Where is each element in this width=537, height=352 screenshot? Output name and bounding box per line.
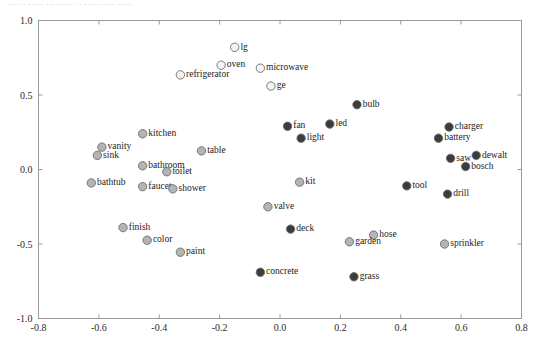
data-point[interactable]: concrete <box>256 266 298 276</box>
point-label-bosch: bosch <box>471 161 493 171</box>
point-label-charger: charger <box>455 121 484 131</box>
point-label-table: table <box>207 145 225 155</box>
point-marker-refrigerator[interactable] <box>176 71 184 79</box>
point-marker-bulb[interactable] <box>353 100 361 108</box>
data-point[interactable]: deck <box>286 223 314 233</box>
point-label-lg: lg <box>240 42 248 52</box>
y-tick-label: -1.0 <box>17 313 33 324</box>
data-point[interactable]: grass <box>350 271 380 281</box>
point-marker-microwave[interactable] <box>256 64 264 72</box>
point-marker-drill[interactable] <box>443 190 451 198</box>
point-marker-battery[interactable] <box>434 134 442 142</box>
point-marker-bathtub[interactable] <box>87 179 95 187</box>
point-marker-bathroom[interactable] <box>138 162 146 170</box>
data-point[interactable]: faucet <box>138 181 171 191</box>
point-marker-bosch[interactable] <box>461 162 469 170</box>
point-label-deck: deck <box>296 223 314 233</box>
point-marker-deck[interactable] <box>286 225 294 233</box>
point-label-concrete: concrete <box>266 266 298 276</box>
point-marker-kitchen[interactable] <box>138 130 146 138</box>
point-label-bulb: bulb <box>363 99 380 109</box>
point-label-saw: saw <box>456 153 471 163</box>
data-point[interactable]: garden <box>345 236 381 246</box>
x-tick-label: 0.4 <box>395 322 408 333</box>
point-marker-color[interactable] <box>143 236 151 244</box>
point-marker-toilet[interactable] <box>163 168 171 176</box>
data-point[interactable]: lg <box>231 42 249 52</box>
data-point[interactable]: fan <box>283 120 305 130</box>
point-label-sink: sink <box>103 150 119 160</box>
scatter-plot-figure: ··· ·· ····· ········· ·· ·········· ···… <box>0 0 537 352</box>
data-point[interactable]: finish <box>119 222 151 232</box>
point-marker-sprinkler[interactable] <box>440 240 448 248</box>
point-label-drill: drill <box>453 188 469 198</box>
data-point[interactable]: color <box>143 234 173 244</box>
point-marker-ge[interactable] <box>267 82 275 90</box>
x-tick-label: 0.8 <box>515 322 528 333</box>
y-tick-label: 0.0 <box>20 164 33 175</box>
point-marker-led[interactable] <box>326 120 334 128</box>
point-marker-kit[interactable] <box>295 178 303 186</box>
point-marker-light[interactable] <box>297 134 305 142</box>
point-marker-paint[interactable] <box>176 248 184 256</box>
data-point[interactable]: kitchen <box>138 128 176 138</box>
point-marker-sink[interactable] <box>93 151 101 159</box>
point-marker-charger[interactable] <box>445 123 453 131</box>
point-marker-dewalt[interactable] <box>472 151 480 159</box>
data-point[interactable]: microwave <box>256 62 308 72</box>
x-tick-label: 0.6 <box>455 322 468 333</box>
data-point[interactable]: dewalt <box>472 150 508 160</box>
data-point[interactable]: bulb <box>353 99 380 109</box>
y-tick-label: 1.0 <box>20 15 33 26</box>
point-marker-grass[interactable] <box>350 273 358 281</box>
data-point[interactable]: battery <box>434 132 471 142</box>
point-label-toilet: toilet <box>172 166 192 176</box>
point-marker-faucet[interactable] <box>138 182 146 190</box>
point-marker-tool[interactable] <box>403 182 411 190</box>
point-label-fan: fan <box>293 120 305 130</box>
point-label-grass: grass <box>360 271 380 281</box>
data-point[interactable]: led <box>326 118 348 128</box>
data-point[interactable]: toilet <box>163 166 193 176</box>
data-point[interactable]: paint <box>176 246 205 256</box>
data-point[interactable]: bathtub <box>87 177 126 187</box>
data-point[interactable]: saw <box>446 153 471 163</box>
data-point[interactable]: drill <box>443 188 469 198</box>
data-point[interactable]: refrigerator <box>176 69 230 79</box>
point-label-ge: ge <box>277 80 286 90</box>
point-marker-fan[interactable] <box>283 122 291 130</box>
point-marker-garden[interactable] <box>345 238 353 246</box>
data-point[interactable]: charger <box>445 121 484 131</box>
point-label-sprinkler: sprinkler <box>450 238 485 248</box>
data-point[interactable]: table <box>197 145 225 155</box>
point-label-hose: hose <box>379 229 396 239</box>
point-marker-shower[interactable] <box>169 185 177 193</box>
point-marker-valve[interactable] <box>264 203 272 211</box>
data-point[interactable]: oven <box>217 59 246 69</box>
point-marker-saw[interactable] <box>446 154 454 162</box>
data-point[interactable]: valve <box>264 201 294 211</box>
point-label-garden: garden <box>355 236 381 246</box>
point-label-microwave: microwave <box>266 62 308 72</box>
point-marker-lg[interactable] <box>231 43 239 51</box>
data-point[interactable]: kit <box>295 176 315 186</box>
point-label-refrigerator: refrigerator <box>186 69 230 79</box>
point-label-kit: kit <box>305 176 315 186</box>
point-marker-table[interactable] <box>197 147 205 155</box>
data-point[interactable]: ge <box>267 80 286 90</box>
data-point[interactable]: light <box>297 132 325 142</box>
x-tick-label: -0.4 <box>151 322 167 333</box>
data-point[interactable]: sink <box>93 150 119 160</box>
y-tick-label: -0.5 <box>17 239 33 250</box>
data-point[interactable]: bosch <box>461 161 493 171</box>
point-label-paint: paint <box>186 246 205 256</box>
point-label-valve: valve <box>274 201 295 211</box>
data-point[interactable]: sprinkler <box>440 238 485 248</box>
point-marker-finish[interactable] <box>119 223 127 231</box>
data-point[interactable]: tool <box>403 180 428 190</box>
point-label-color: color <box>153 234 173 244</box>
data-point[interactable]: shower <box>169 183 207 193</box>
point-label-dewalt: dewalt <box>482 150 508 160</box>
x-tick-label: -0.8 <box>31 322 47 333</box>
point-marker-concrete[interactable] <box>256 268 264 276</box>
